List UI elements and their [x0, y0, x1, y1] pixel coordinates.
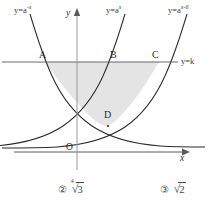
y-axis-label: y — [66, 9, 70, 19]
curve-label-a-x-minus-6: y=ax-6 — [168, 4, 189, 14]
curve-label-a-x: y=ax — [106, 4, 122, 14]
option-2-radicand: 3 — [76, 182, 84, 195]
point-label-c: C — [152, 50, 159, 60]
curve-label-base: y=a — [106, 5, 119, 15]
option-2[interactable]: ② 4√3 — [58, 182, 84, 197]
option-3[interactable]: ③ √2 — [160, 182, 186, 197]
point-marker-d — [107, 125, 109, 127]
curve-label-exponent: -x — [27, 4, 32, 10]
origin-label: O — [66, 143, 73, 153]
curve-label-exponent: x — [119, 4, 122, 10]
option-3-radicand: 2 — [178, 182, 186, 195]
figure-svg — [0, 0, 209, 208]
line-label-text: y=k — [181, 56, 194, 66]
point-label-d: D — [104, 110, 111, 120]
curve-label-base: y=a — [168, 5, 181, 15]
curve-label-a-neg-x: y=a-x — [14, 4, 32, 14]
option-3-number: ③ — [160, 184, 169, 195]
option-2-radical: 4√3 — [70, 182, 84, 197]
option-3-radical: √2 — [172, 182, 186, 197]
answer-options: ② 4√3 ③ √2 — [0, 178, 209, 208]
option-2-number: ② — [58, 184, 67, 195]
x-axis-label: x — [180, 154, 184, 164]
math-figure: y=a-x y=ax y=ax-6 y=k A B C D O x y — [0, 0, 209, 208]
option-2-root-degree: 4 — [71, 178, 74, 184]
curve-label-base: y=a — [14, 5, 27, 15]
point-label-a: A — [39, 50, 46, 60]
curve-label-exponent: x-6 — [181, 4, 189, 10]
point-label-b: B — [110, 50, 117, 60]
line-label-y-equals-k: y=k — [181, 57, 194, 66]
y-axis-arrow-icon — [74, 8, 80, 16]
